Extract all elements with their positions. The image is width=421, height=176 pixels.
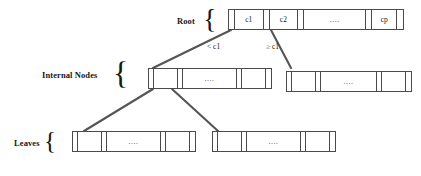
internal-right-cell-key-0[interactable] [292,72,316,91]
internal-node-left[interactable]: .... [148,68,272,89]
internal-right-cell-pointer-3[interactable] [406,72,411,91]
edge-label-less-than-c1: < c1 [207,42,220,51]
leaf-left-cell-key-0[interactable] [78,132,102,151]
leaf-right-cell-key-0[interactable] [218,132,242,151]
row-label-leaves: Leaves [14,138,40,148]
edge-label-greater-equal-c1: ≥ c1 [266,42,279,51]
internal-right-cell-ellipsis: .... [321,72,378,91]
leaf-node-left[interactable]: .... [72,131,196,152]
internal-left-cell-key-0[interactable] [154,69,178,88]
root-node[interactable]: c1 c2 .... cp [228,9,404,30]
internal-right-cell-key-1[interactable] [382,72,406,91]
leaf-left-cell-pointer-3[interactable] [190,132,195,151]
root-cell-pointer-4[interactable] [397,10,403,29]
row-label-internal: Internal Nodes [42,70,97,80]
btree-diagram: Root { Internal Nodes { Leaves { c1 c2 .… [0,0,421,176]
internal-left-cell-ellipsis: .... [183,69,238,88]
brace-leaves: { [44,128,56,153]
leaf-right-cell-ellipsis: .... [247,132,302,151]
root-cell-key-c1[interactable]: c1 [235,10,264,29]
root-cell-ellipsis: .... [304,10,366,29]
edge-internal-to-leaf-left [84,89,153,131]
row-label-root: Root [177,16,195,26]
root-cell-key-c2[interactable]: c2 [270,10,299,29]
leaf-right-cell-pointer-3[interactable] [330,132,335,151]
leaf-left-cell-ellipsis: .... [107,132,162,151]
leaf-node-right[interactable]: .... [212,131,336,152]
root-cell-key-cp[interactable]: cp [372,10,397,29]
internal-left-cell-key-1[interactable] [242,69,266,88]
brace-internal: { [113,57,128,89]
edge-internal-to-leaf-right [172,89,218,131]
internal-node-right[interactable]: .... [286,71,412,92]
internal-left-cell-pointer-3[interactable] [266,69,271,88]
leaf-left-cell-key-1[interactable] [166,132,190,151]
leaf-right-cell-key-1[interactable] [306,132,330,151]
brace-root: { [203,5,216,33]
